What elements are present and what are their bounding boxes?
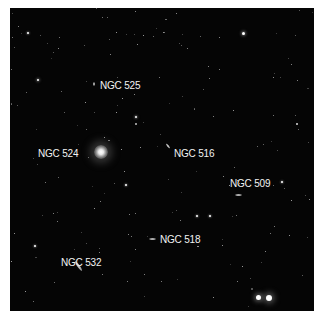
faint-star bbox=[11, 69, 12, 70]
faint-star bbox=[102, 274, 104, 276]
faint-star bbox=[144, 296, 145, 297]
faint-star bbox=[284, 188, 285, 189]
faint-star bbox=[160, 134, 161, 135]
faint-star bbox=[307, 237, 308, 238]
faint-star bbox=[159, 77, 160, 78]
faint-star bbox=[276, 33, 277, 34]
label-ngc-516: NGC 516 bbox=[174, 149, 214, 159]
label-ngc-524: NGC 524 bbox=[38, 149, 78, 159]
faint-star bbox=[96, 8, 97, 9]
faint-star bbox=[291, 200, 292, 201]
faint-star bbox=[47, 43, 48, 44]
faint-star bbox=[273, 185, 274, 186]
faint-star bbox=[35, 257, 37, 259]
faint-star bbox=[234, 167, 235, 168]
star bbox=[135, 116, 137, 118]
faint-star bbox=[121, 149, 122, 150]
faint-star bbox=[109, 39, 110, 40]
faint-star bbox=[299, 10, 300, 11]
faint-star bbox=[117, 105, 118, 106]
faint-star bbox=[77, 125, 78, 126]
faint-star bbox=[233, 110, 234, 111]
faint-star bbox=[51, 58, 52, 59]
faint-star bbox=[168, 179, 169, 180]
faint-star bbox=[17, 105, 18, 106]
faint-star bbox=[59, 37, 60, 38]
faint-star bbox=[88, 157, 89, 158]
faint-star bbox=[127, 281, 128, 282]
faint-star bbox=[126, 34, 127, 35]
faint-star bbox=[122, 98, 123, 99]
faint-star bbox=[12, 37, 14, 39]
faint-star bbox=[232, 216, 233, 217]
faint-star bbox=[291, 64, 292, 65]
faint-star bbox=[219, 69, 220, 70]
faint-star bbox=[124, 171, 125, 172]
faint-star bbox=[128, 234, 129, 235]
faint-star bbox=[307, 88, 309, 90]
faint-star bbox=[237, 281, 238, 282]
star bbox=[27, 32, 29, 34]
faint-star bbox=[270, 233, 272, 235]
faint-star bbox=[223, 176, 224, 177]
star bbox=[34, 245, 36, 247]
faint-star bbox=[271, 141, 272, 142]
faint-star bbox=[209, 78, 210, 79]
faint-star bbox=[108, 140, 110, 142]
faint-star bbox=[37, 164, 38, 165]
faint-star bbox=[180, 220, 181, 221]
faint-star bbox=[12, 13, 13, 14]
faint-star bbox=[147, 236, 148, 237]
faint-star bbox=[114, 183, 115, 184]
star bbox=[196, 215, 198, 217]
faint-star bbox=[169, 103, 170, 104]
faint-star bbox=[94, 208, 95, 209]
faint-star bbox=[196, 171, 197, 172]
faint-star bbox=[53, 52, 54, 53]
faint-star bbox=[176, 210, 177, 211]
faint-star bbox=[135, 11, 136, 12]
faint-star bbox=[26, 92, 27, 93]
faint-star bbox=[182, 34, 184, 36]
faint-star bbox=[302, 275, 303, 276]
faint-star bbox=[134, 94, 135, 95]
faint-star bbox=[57, 221, 58, 222]
faint-star bbox=[86, 81, 87, 82]
faint-star bbox=[11, 103, 13, 105]
faint-star bbox=[78, 144, 79, 145]
faint-star bbox=[104, 137, 105, 138]
galaxy-ngc-516 bbox=[165, 143, 170, 149]
faint-star bbox=[33, 158, 34, 159]
faint-star bbox=[161, 281, 162, 282]
faint-star bbox=[143, 35, 144, 36]
faint-star bbox=[263, 144, 264, 145]
label-ngc-518: NGC 518 bbox=[160, 235, 200, 245]
faint-star bbox=[296, 123, 298, 125]
star bbox=[266, 295, 272, 301]
faint-star bbox=[309, 199, 310, 200]
faint-star bbox=[265, 251, 266, 252]
faint-star bbox=[57, 212, 58, 213]
faint-star bbox=[140, 147, 141, 148]
faint-star bbox=[181, 45, 182, 46]
faint-star bbox=[129, 214, 130, 215]
faint-star bbox=[102, 17, 103, 18]
faint-star bbox=[257, 146, 258, 147]
faint-star bbox=[74, 249, 75, 250]
faint-star bbox=[176, 13, 177, 14]
faint-star bbox=[131, 236, 132, 237]
faint-star bbox=[61, 91, 62, 92]
faint-star bbox=[11, 261, 12, 262]
faint-star bbox=[14, 47, 15, 48]
faint-star bbox=[36, 129, 37, 130]
faint-star bbox=[42, 215, 43, 216]
faint-star bbox=[194, 108, 196, 110]
faint-star bbox=[134, 34, 135, 35]
faint-star bbox=[187, 48, 188, 49]
faint-star bbox=[25, 291, 26, 292]
galaxy-ngc-524 bbox=[94, 145, 108, 159]
faint-star bbox=[85, 102, 86, 103]
faint-star bbox=[104, 193, 105, 194]
faint-star bbox=[58, 177, 59, 178]
galaxy-ngc-525 bbox=[93, 82, 95, 86]
